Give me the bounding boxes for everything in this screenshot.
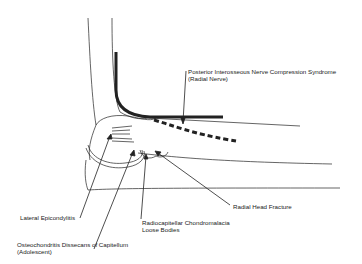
radial-nerve [116,52,223,117]
humerus-outline [88,18,96,160]
label-radiocapitellar: Radiocapitellar Chondromalacia Loose Bod… [142,219,230,233]
radius-lower [138,153,332,164]
posterior-interosseous-nerve [154,120,236,141]
ulna [88,188,340,190]
label-ocd-capitellum: Osteochondritis Dissecans of Capitellum … [17,241,128,255]
label-radial-head-fracture: Radial Head Fracture [233,203,292,210]
label-lateral-epicondylitis: Lateral Epicondylitis [20,214,75,221]
label-pin-compression: Posterior Interosseous Nerve Compression… [188,68,336,82]
